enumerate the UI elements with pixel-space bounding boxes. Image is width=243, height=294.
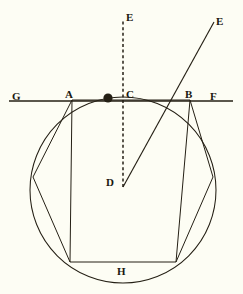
point-label-e-dashed: E bbox=[126, 12, 133, 23]
point-label-d: D bbox=[106, 177, 114, 188]
solid-ray-de bbox=[123, 22, 214, 187]
point-label-f: F bbox=[210, 91, 217, 102]
diagram-canvas: G A C B F E E D H bbox=[0, 0, 243, 294]
point-label-c: C bbox=[126, 89, 134, 100]
point-label-a: A bbox=[65, 89, 73, 100]
point-label-g: G bbox=[12, 91, 21, 102]
point-label-h: H bbox=[117, 266, 126, 277]
chord-b-to-bottom-right bbox=[176, 100, 190, 262]
point-label-b: B bbox=[185, 89, 192, 100]
chord-a-to-bottom-left bbox=[70, 100, 72, 262]
geometry-figure bbox=[0, 0, 243, 294]
marker-dot bbox=[103, 93, 112, 102]
point-label-e-solid: E bbox=[216, 16, 223, 27]
